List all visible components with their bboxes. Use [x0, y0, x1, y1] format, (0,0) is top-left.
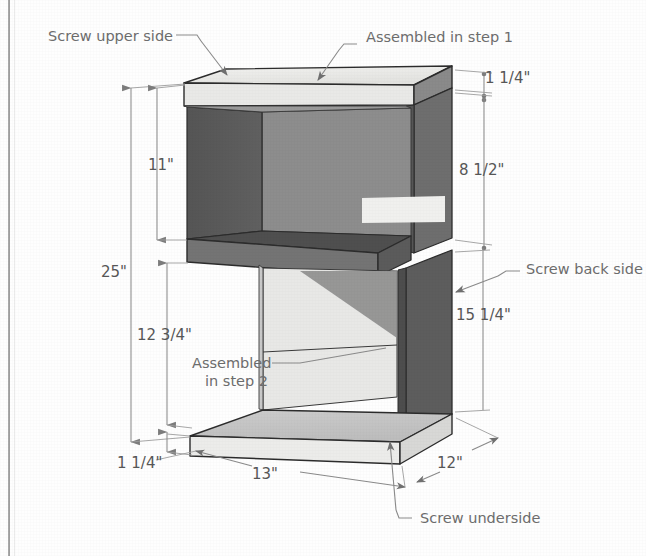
callout-screw-underside-label: Screw underside: [420, 510, 540, 526]
base-board: [190, 410, 452, 464]
callout-assembled-step-1-label: Assembled in step 1: [366, 29, 513, 45]
dimension-11: 11": [148, 85, 187, 240]
dimension-12-3-4-label: 12 3/4": [137, 326, 192, 344]
callout-assembled-step-2-label-line1: Assembled: [192, 355, 271, 371]
callout-screw-back-side: Screw back side: [456, 261, 643, 292]
dimension-8-1-2-label: 8 1/2": [459, 161, 504, 179]
dimension-25-label: 25": [101, 263, 127, 281]
callout-screw-upper-side: Screw upper side: [48, 28, 227, 75]
dimension-12-label: 12": [437, 454, 463, 472]
lower-right-side-outer: [406, 250, 452, 427]
upper-right-side-outer: [414, 88, 452, 253]
callout-screw-upper-side-label: Screw upper side: [48, 28, 173, 44]
dimension-1-1-4-bottom: 1 1/4": [117, 432, 196, 472]
top-board-front-edge: [184, 83, 414, 106]
interior-highlight-patch: [362, 196, 445, 223]
callout-screw-back-side-label: Screw back side: [526, 261, 643, 277]
dimension-11-label: 11": [148, 156, 174, 174]
callout-assembled-step-2-label-line2: in step 2: [205, 373, 268, 389]
nightstand-drawing: 25" 11" 12 3/4" 1 1/4": [0, 0, 646, 556]
upper-interior-left-panel: [187, 107, 262, 239]
dimension-1-1-4-bottom-label: 1 1/4": [117, 454, 162, 472]
dimension-1-1-4-top: 1 1/4": [455, 69, 530, 100]
upper-right-side-panel: [406, 88, 452, 253]
dimension-13-label: 13": [252, 465, 278, 483]
dimension-12-3-4: 12 3/4": [137, 263, 192, 428]
lower-right-side-front-strip: [398, 268, 406, 427]
dimension-8-1-2: 8 1/2": [455, 93, 504, 248]
diagram-canvas: 25" 11" 12 3/4" 1 1/4": [0, 0, 646, 556]
top-board-top-face: [184, 66, 452, 85]
dimension-1-1-4-top-label: 1 1/4": [485, 69, 530, 87]
dimension-15-1-4-label: 15 1/4": [456, 306, 511, 324]
